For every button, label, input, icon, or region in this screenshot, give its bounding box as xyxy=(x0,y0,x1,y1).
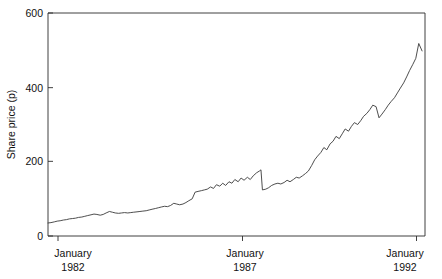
y-tick-label-600: 600 xyxy=(25,7,43,19)
y-axis-title: Share price (p) xyxy=(5,90,17,159)
x-tick-label-1987-month: January xyxy=(226,247,264,259)
x-tick-label-1982-month: January xyxy=(54,247,92,259)
y-tick-label-200: 200 xyxy=(25,155,43,167)
y-tick-label-400: 400 xyxy=(25,82,43,94)
x-tick-label-1982-year: 1982 xyxy=(61,261,85,273)
y-tick-label-0: 0 xyxy=(37,230,43,242)
chart-background xyxy=(0,0,442,279)
y-axis-title-group: Share price (p) xyxy=(5,90,17,159)
x-tick-label-1992-month: January xyxy=(386,247,424,259)
share-price-chart: 600 400 200 0 Share price (p) January 19… xyxy=(0,0,442,279)
chart-canvas: 600 400 200 0 Share price (p) January 19… xyxy=(0,0,442,279)
x-tick-label-1992-year: 1992 xyxy=(393,261,417,273)
x-tick-label-1987-year: 1987 xyxy=(233,261,257,273)
